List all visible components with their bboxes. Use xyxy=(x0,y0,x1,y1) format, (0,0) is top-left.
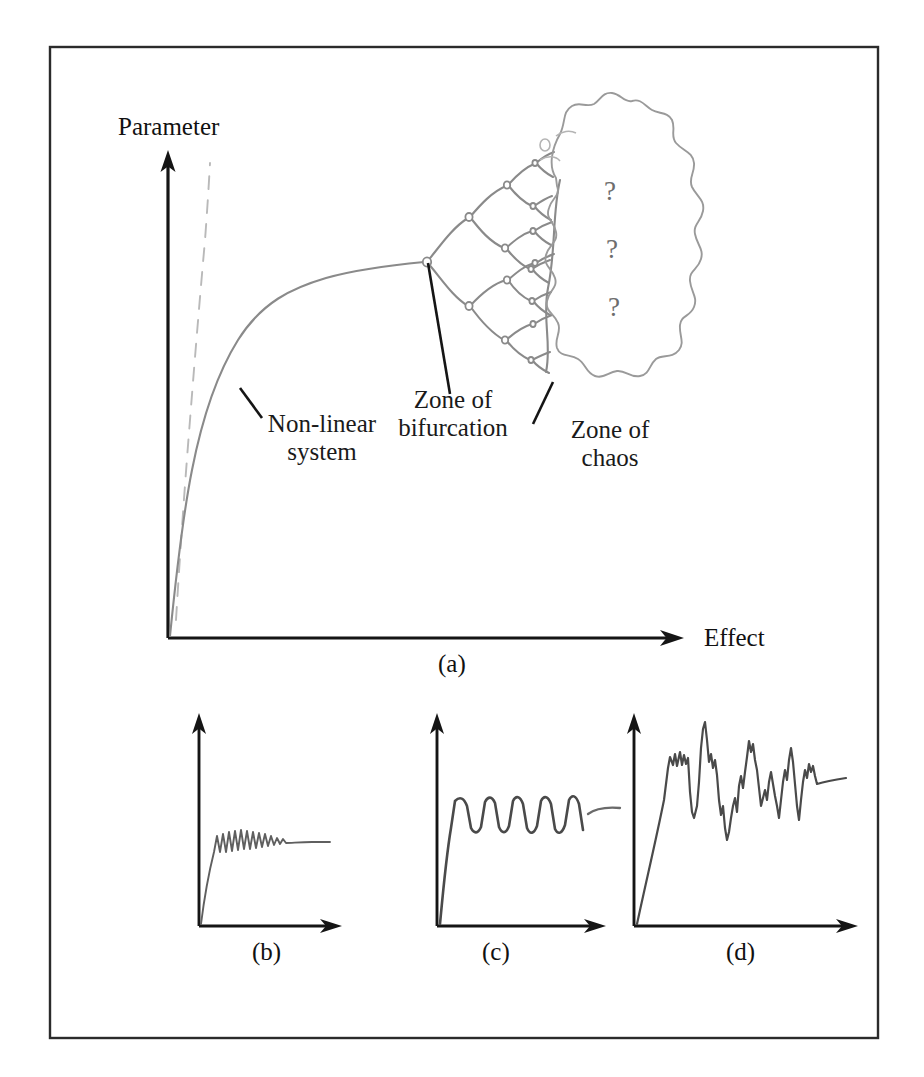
panel-d-y-axis xyxy=(627,713,641,926)
panel-c-trace xyxy=(440,796,583,924)
panel-b-caption: (b) xyxy=(252,938,281,965)
annotation-zone-of-bifurcation-line2: bifurcation xyxy=(368,414,538,442)
annotation-zone-of-chaos-line1: Zone of xyxy=(540,416,680,444)
annotation-zone-of-chaos: Zone of chaos xyxy=(540,416,680,472)
figure-root: Parameter Effect Non-linear system Zone … xyxy=(0,0,924,1077)
panel-d-caption: (d) xyxy=(726,938,755,965)
chaos-question-mark-1: ? xyxy=(604,176,616,207)
panel-d-x-axis xyxy=(634,919,858,933)
unstable-dashed-branch xyxy=(176,163,210,620)
panel-b-x-axis xyxy=(199,919,342,933)
panel-d xyxy=(627,713,858,933)
panel-c-trailing-dash xyxy=(588,808,620,814)
chaos-question-mark-2: ? xyxy=(606,234,618,265)
panel-b-trace xyxy=(201,830,330,924)
chaos-question-mark-3: ? xyxy=(608,292,620,323)
panel-b-y-axis xyxy=(192,713,206,926)
bifurcation-tree xyxy=(427,152,560,373)
annotation-zone-of-bifurcation: Zone of bifurcation xyxy=(368,386,538,442)
panel-b xyxy=(192,713,342,933)
panel-a-x-axis xyxy=(168,630,684,646)
panel-a-caption: (a) xyxy=(438,650,466,677)
figure-border xyxy=(50,47,878,1038)
annotation-zone-of-chaos-line2: chaos xyxy=(540,444,680,472)
panel-a-y-axis xyxy=(161,150,176,638)
annotation-non-linear-system-line2: system xyxy=(222,438,422,466)
panel-c xyxy=(430,713,620,933)
leader-line-bifurcation xyxy=(428,263,450,394)
panel-a-x-axis-label: Effect xyxy=(704,624,765,651)
panel-c-x-axis xyxy=(437,919,606,933)
figure-canvas xyxy=(0,0,924,1077)
panel-a xyxy=(161,93,704,646)
chaos-cloud xyxy=(540,93,703,377)
panel-d-trace xyxy=(637,722,846,924)
panel-c-caption: (c) xyxy=(482,938,510,965)
annotation-zone-of-bifurcation-line1: Zone of xyxy=(368,386,538,414)
panel-a-y-axis-label: Parameter xyxy=(118,113,219,140)
